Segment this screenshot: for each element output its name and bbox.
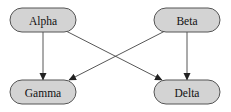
node-gamma-label: Gamma — [25, 87, 61, 99]
node-beta[interactable]: Beta — [154, 8, 220, 32]
node-delta-label: Delta — [175, 87, 200, 99]
node-alpha[interactable]: Alpha — [10, 8, 76, 32]
edge-alpha-delta — [66, 31, 162, 80]
edge-beta-gamma — [69, 31, 165, 80]
node-alpha-label: Alpha — [29, 15, 57, 28]
node-delta[interactable]: Delta — [154, 80, 220, 104]
edges — [43, 31, 187, 80]
node-beta-label: Beta — [176, 15, 197, 27]
diagram-canvas: Alpha Beta Gamma Delta — [0, 0, 231, 112]
node-gamma[interactable]: Gamma — [10, 80, 76, 104]
